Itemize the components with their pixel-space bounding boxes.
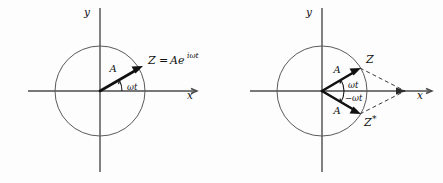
right-vector-label-lower: A (332, 105, 340, 116)
left-vector-label: A (108, 63, 116, 74)
phasor-diagram-figure: y x A ωt Z = Ae iωt (0, 0, 443, 183)
right-point-label-z: Z (365, 53, 374, 66)
right-angle-arc-upper (341, 80, 344, 91)
right-x-axis-label: x (417, 89, 423, 101)
left-expression-equals: = (159, 54, 168, 67)
left-angle-arc (120, 81, 123, 92)
right-vector-label-upper: A (332, 64, 340, 75)
left-angle-label: ωt (127, 82, 138, 92)
left-x-axis-label: x (187, 89, 193, 101)
left-y-axis-label: y (83, 6, 91, 18)
right-angle-label-upper: ωt (348, 80, 359, 90)
right-point-label-z-conj: Z (363, 116, 372, 129)
left-panel-group: y x A ωt Z = Ae iωt (28, 6, 200, 172)
left-expression-z: Z (147, 54, 156, 67)
right-panel-group: y x A A ωt −ωt Z Z * (250, 6, 432, 172)
right-angle-label-lower: −ωt (345, 93, 363, 103)
right-y-axis-label: y (305, 6, 313, 18)
left-expression-amplitude: Ae (169, 54, 185, 67)
diagram-canvas: y x A ωt Z = Ae iωt (0, 0, 443, 183)
right-angle-arc-lower (341, 91, 344, 102)
left-expression-exponent: iωt (187, 51, 200, 60)
right-point-label-z-conj-star: * (372, 114, 377, 124)
